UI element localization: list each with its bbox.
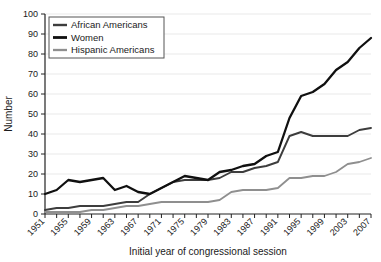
series-line-women <box>45 38 371 194</box>
x-tick-label: 1955 <box>48 216 69 237</box>
line-chart: 0102030405060708090100 19511955195919631… <box>0 0 381 262</box>
y-tick-label: 90 <box>28 29 38 39</box>
legend-label-1: Women <box>71 32 104 43</box>
y-axis-title: Number <box>3 96 14 132</box>
x-tick-label: 1963 <box>95 216 116 237</box>
series-line-african-americans <box>45 128 371 210</box>
y-tick-label: 60 <box>28 89 38 99</box>
data-series-group <box>45 38 371 212</box>
y-tick-label: 70 <box>28 69 38 79</box>
chart-container: 0102030405060708090100 19511955195919631… <box>0 0 381 262</box>
x-tick-label: 1991 <box>258 216 279 237</box>
y-axis-ticks: 0102030405060708090100 <box>23 9 45 219</box>
y-tick-label: 100 <box>23 9 38 19</box>
x-tick-label: 1995 <box>281 216 302 237</box>
x-tick-label: 1967 <box>118 216 139 237</box>
legend-label-0: African Americans <box>71 19 148 30</box>
x-tick-label: 1983 <box>211 216 232 237</box>
x-tick-label: 2003 <box>328 216 349 237</box>
series-line-hispanic-americans <box>45 158 371 212</box>
x-tick-label: 2007 <box>351 216 372 237</box>
y-tick-label: 30 <box>28 149 38 159</box>
x-tick-label: 1971 <box>142 216 163 237</box>
x-tick-label: 1959 <box>72 216 93 237</box>
y-tick-label: 50 <box>28 109 38 119</box>
x-tick-label: 1987 <box>235 216 256 237</box>
x-tick-label: 1975 <box>165 216 186 237</box>
legend-label-2: Hispanic Americans <box>71 44 155 55</box>
y-tick-label: 10 <box>28 189 38 199</box>
y-tick-label: 80 <box>28 49 38 59</box>
x-tick-label: 1979 <box>188 216 209 237</box>
x-axis-ticks: 1951195519591963196719711975197919831987… <box>25 214 372 238</box>
y-tick-label: 20 <box>28 169 38 179</box>
y-tick-label: 40 <box>28 129 38 139</box>
x-tick-label: 1951 <box>25 216 46 237</box>
chart-legend: African AmericansWomenHispanic Americans <box>49 17 164 58</box>
x-tick-label: 1999 <box>305 216 326 237</box>
x-axis-title: Initial year of congressional session <box>129 246 287 257</box>
